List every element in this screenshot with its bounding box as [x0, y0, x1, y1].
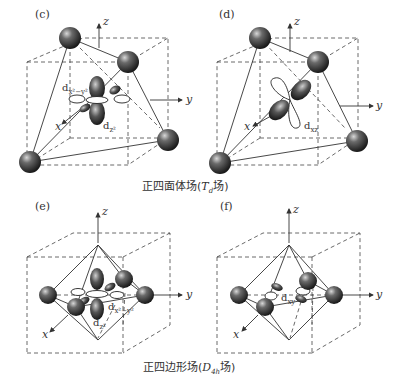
axis-x-label-c: x — [55, 120, 61, 133]
axis-y-label-f: y — [376, 288, 382, 301]
square-planar-diagram-f — [195, 195, 398, 355]
panel-label-f: (f) — [220, 200, 233, 213]
axis-z-label-e: z — [102, 205, 108, 218]
panel-label-d: (d) — [219, 8, 235, 21]
panel-e-square-planar-dz2-dx2y2: (e) z y x dz² dx²−y² — [0, 195, 199, 355]
orbital-label-dz2-e: dz² — [93, 317, 106, 331]
orbital-label-dx2y2-c: dx²−y² — [62, 82, 88, 96]
dz2-orbital-icon — [86, 76, 108, 125]
axis-y-label-e: y — [186, 288, 192, 301]
orbital-label-dz2-c: dz² — [103, 120, 116, 134]
panel-c-tetrahedral-dz2-dx2y2: (c) z y x dx²−y² dz² — [0, 0, 199, 175]
caption-square-planar-field: 正四边形场(D4h场) — [143, 358, 235, 376]
square-planar-diagram-e — [0, 195, 199, 355]
orbital-label-dxz-d: dxz — [304, 120, 318, 134]
axis-x-label-d: x — [244, 120, 250, 133]
panel-label-c: (c) — [35, 8, 50, 21]
axis-x-label-e: x — [42, 328, 48, 341]
dz2-orbital-icon — [86, 268, 108, 320]
orbital-label-dx2y2-e: dx²−y² — [108, 301, 134, 315]
axis-z-label-f: z — [293, 203, 299, 216]
panel-d-tetrahedral-dxz: (d) z y x dxz — [195, 0, 398, 175]
axis-x-label-f: x — [233, 328, 239, 341]
caption-tetrahedral-field: 正四面体场(Td场) — [142, 177, 228, 195]
orbital-label-dxy-f: dxy — [281, 292, 295, 306]
tetrahedral-diagram-c — [0, 0, 199, 175]
panel-label-e: (e) — [35, 200, 50, 213]
panel-f-square-planar-dxy: (f) z y x dxy — [195, 195, 398, 355]
axis-y-label-d: y — [376, 99, 382, 112]
axis-z-label-d: z — [294, 15, 300, 28]
axis-y-label-c: y — [186, 93, 192, 106]
axis-z-label-c: z — [103, 15, 109, 28]
